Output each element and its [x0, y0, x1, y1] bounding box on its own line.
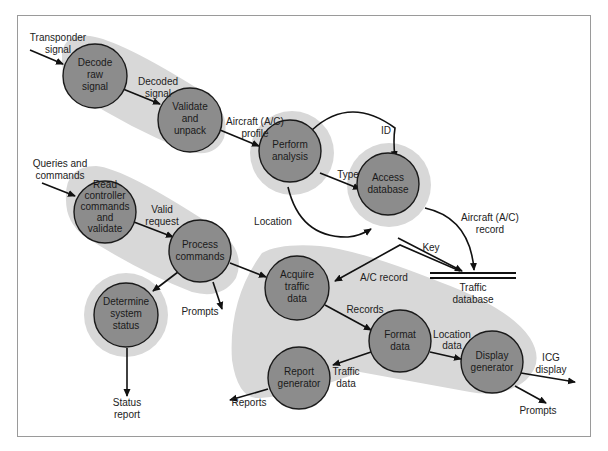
flow-label-type: Type: [337, 169, 359, 180]
flow-label-ac-record2: A/C record: [360, 272, 408, 283]
flow-label-records: Records: [346, 304, 383, 315]
flow-label-status-report: Statusreport: [113, 397, 141, 420]
label-process: Processcommands: [176, 239, 225, 262]
flow-label-location: Location: [254, 216, 292, 227]
data-store-traffic-database: [430, 273, 516, 278]
label-access: Accessdatabase: [367, 172, 409, 195]
flow-label-prompts2: Prompts: [519, 405, 556, 416]
flow-label-queries: Queries andcommands: [33, 158, 87, 181]
flow-label-icg: ICGdisplay: [535, 352, 566, 375]
flow-prompts2: [515, 386, 546, 403]
data-flow-diagram: Decoderawsignal Validateandunpack Perfor…: [0, 0, 608, 451]
flow-label-ac-record: Aircraft (A/C)record: [461, 212, 519, 235]
data-store-label: Trafficdatabase: [452, 282, 494, 305]
label-analysis: Performanalysis: [272, 139, 308, 162]
label-display: Displaygenerator: [471, 350, 514, 373]
flow-label-traffic-data: Trafficdata: [332, 366, 359, 389]
flow-label-key: Key: [422, 242, 439, 253]
flow-label-id: ID: [381, 125, 391, 136]
flow-label-prompts1: Prompts: [181, 306, 218, 317]
flow-label-reports: Reports: [231, 397, 266, 408]
